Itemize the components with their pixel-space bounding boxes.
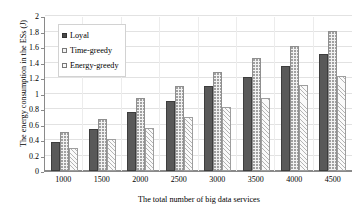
bar-chart: The energy consumption in the ESs (J) Th… bbox=[0, 0, 359, 213]
x-tick-label: 3000 bbox=[198, 175, 237, 184]
legend-item-time-greedy: Time-greedy bbox=[62, 43, 119, 58]
legend-label-energy-greedy: Energy-greedy bbox=[70, 61, 119, 70]
y-tick-label: 0.2 bbox=[0, 153, 39, 161]
bar-energy-greedy bbox=[107, 139, 116, 171]
bar-group bbox=[275, 17, 313, 171]
y-tick-label: 0.6 bbox=[0, 122, 39, 130]
x-tick-label: 1000 bbox=[44, 175, 83, 184]
legend-label-loyal: Loyal bbox=[70, 31, 89, 40]
bar-group bbox=[314, 17, 352, 171]
x-tick-label: 3500 bbox=[237, 175, 276, 184]
x-tick-label: 2500 bbox=[160, 175, 199, 184]
bar-time-greedy bbox=[175, 86, 184, 171]
bar-energy-greedy bbox=[69, 148, 78, 171]
y-tick-label: 0 bbox=[0, 168, 39, 176]
bar-loyal bbox=[127, 112, 136, 171]
bar-loyal bbox=[243, 77, 252, 171]
bar-group bbox=[160, 17, 198, 171]
bar-time-greedy bbox=[136, 98, 145, 171]
bar-loyal bbox=[166, 101, 175, 171]
bar-time-greedy bbox=[290, 46, 299, 172]
bar-energy-greedy bbox=[337, 76, 346, 171]
bar-loyal bbox=[204, 86, 213, 171]
y-tick-label: 2 bbox=[0, 13, 39, 21]
x-tick-label: 2000 bbox=[121, 175, 160, 184]
x-axis-title: The total number of big data services bbox=[44, 195, 354, 204]
y-tick-label: 1.8 bbox=[0, 29, 39, 37]
bar-time-greedy bbox=[213, 72, 222, 171]
bar-energy-greedy bbox=[299, 85, 308, 171]
bar-energy-greedy bbox=[261, 98, 270, 171]
legend-item-loyal: Loyal bbox=[62, 28, 119, 43]
x-axis-tick-labels: 10001500200025003000350040004500 bbox=[44, 175, 352, 184]
legend: Loyal Time-greedy Energy-greedy bbox=[58, 24, 126, 77]
bar-group bbox=[199, 17, 237, 171]
y-tick-label: 0.8 bbox=[0, 106, 39, 114]
x-tick-label: 1500 bbox=[83, 175, 122, 184]
bar-time-greedy bbox=[328, 31, 337, 171]
x-tick-label: 4500 bbox=[314, 175, 353, 184]
bar-time-greedy bbox=[252, 58, 261, 171]
bar-loyal bbox=[319, 54, 328, 171]
bar-time-greedy bbox=[98, 119, 107, 171]
legend-swatch-loyal-icon bbox=[62, 33, 67, 38]
bar-group bbox=[122, 17, 160, 171]
y-tick-label: 1.4 bbox=[0, 60, 39, 68]
y-tick-label: 1.2 bbox=[0, 75, 39, 83]
legend-item-energy-greedy: Energy-greedy bbox=[62, 58, 119, 73]
y-tick-mark bbox=[41, 172, 44, 173]
bar-group bbox=[237, 17, 275, 171]
x-tick-label: 4000 bbox=[275, 175, 314, 184]
y-tick-label: 0.4 bbox=[0, 137, 39, 145]
legend-swatch-energy-greedy-icon bbox=[62, 63, 67, 68]
bar-loyal bbox=[89, 129, 98, 171]
y-tick-label: 1.6 bbox=[0, 44, 39, 52]
legend-label-time-greedy: Time-greedy bbox=[70, 46, 112, 55]
bar-energy-greedy bbox=[222, 107, 231, 171]
bar-time-greedy bbox=[60, 132, 69, 171]
gridline bbox=[45, 15, 352, 16]
bar-loyal bbox=[51, 142, 60, 171]
y-tick-label: 1 bbox=[0, 91, 39, 99]
bar-energy-greedy bbox=[145, 128, 154, 171]
legend-swatch-time-greedy-icon bbox=[62, 48, 67, 53]
bar-energy-greedy bbox=[184, 117, 193, 171]
bar-loyal bbox=[281, 66, 290, 171]
